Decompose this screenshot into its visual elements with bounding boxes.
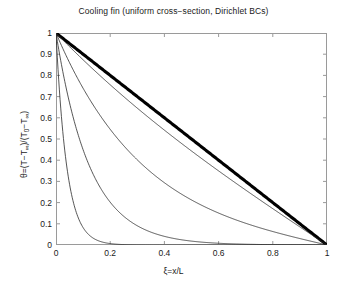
x-tick-label: 0.8	[267, 248, 279, 258]
x-tick-label: 0.2	[104, 248, 116, 258]
y-tick-label: 0.9	[40, 49, 52, 59]
x-axis-label: ξ=x/L	[0, 266, 347, 276]
chart-title: Cooling fin (uniform cross−section, Diri…	[0, 6, 347, 16]
y-tick-label: 0.6	[40, 113, 52, 123]
y-tick-label: 0.3	[40, 176, 52, 186]
y-tick-label: 0.5	[40, 134, 52, 144]
series-line	[56, 33, 327, 245]
x-tick-label: 0.6	[213, 248, 225, 258]
x-tick-label: 1	[325, 248, 330, 258]
plot-svg	[56, 33, 327, 245]
x-tick-label: 0	[54, 248, 59, 258]
series-layer	[56, 33, 327, 245]
y-tick-label: 1	[47, 28, 52, 38]
y-tick-label: 0	[47, 240, 52, 250]
y-tick-label: 0.8	[40, 70, 52, 80]
y-tick-label: 0.4	[40, 155, 52, 165]
figure-canvas: Cooling fin (uniform cross−section, Diri…	[0, 0, 347, 290]
y-tick-label: 0.2	[40, 198, 52, 208]
plot-area	[56, 33, 327, 245]
y-tick-label: 0.7	[40, 92, 52, 102]
y-axis-label: θ=(T−T∞)/(T0−T∞)	[19, 65, 30, 225]
y-tick-label: 0.1	[40, 219, 52, 229]
y-axis-label-text: θ=(T−T∞)/(T0−T∞)	[19, 111, 29, 178]
x-tick-label: 0.4	[158, 248, 170, 258]
